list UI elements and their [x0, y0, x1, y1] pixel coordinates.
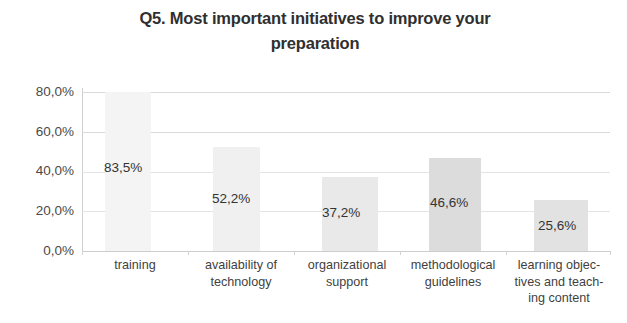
bar-chart: Q5. Most important initiatives to improv…	[0, 0, 627, 323]
x-axis-category-learning-objectives: learning objec- tives and teach- ing con…	[506, 257, 612, 307]
x-axis-tick-2	[294, 251, 295, 255]
x-axis-tick-0	[82, 251, 83, 255]
category-line-1: training	[82, 257, 188, 274]
gridline-40	[82, 172, 610, 173]
x-axis-tick-1	[188, 251, 189, 255]
category-line-1: methodological	[400, 257, 506, 274]
data-label-learning-objectives: 25,6%	[538, 218, 576, 233]
x-axis-category-training: training	[82, 257, 188, 274]
plot-area	[82, 92, 610, 251]
chart-title: Q5. Most important initiatives to improv…	[60, 6, 570, 56]
y-axis-label-40: 40,0%	[8, 164, 74, 178]
x-axis-line	[82, 251, 610, 252]
y-axis-label-20: 20,0%	[8, 204, 74, 218]
chart-title-line-2: preparation	[60, 31, 570, 56]
gridline-60	[82, 132, 610, 133]
y-axis-label-0: 0,0%	[8, 244, 74, 258]
data-label-methodological-guidelines: 46,6%	[430, 195, 468, 210]
x-axis-tick-4	[506, 251, 507, 255]
category-line-3: ing content	[506, 290, 612, 307]
category-line-2: technology	[188, 274, 294, 291]
chart-title-line-1: Q5. Most important initiatives to improv…	[60, 6, 570, 31]
y-axis-label-60: 60,0%	[8, 125, 74, 139]
x-axis-tick-3	[400, 251, 401, 255]
data-label-organizational-support: 37,2%	[322, 205, 360, 220]
category-line-2: support	[294, 274, 400, 291]
category-line-2: tives and teach-	[506, 274, 612, 291]
x-axis-category-methodological-guidelines: methodological guidelines	[400, 257, 506, 290]
category-line-1: organizational	[294, 257, 400, 274]
x-axis-category-availability-of-technology: availability of technology	[188, 257, 294, 290]
x-axis-category-organizational-support: organizational support	[294, 257, 400, 290]
x-axis-tick-5	[610, 251, 611, 255]
gridline-80	[82, 92, 610, 93]
data-label-training: 83,5%	[104, 160, 142, 175]
y-axis-label-80: 80,0%	[8, 85, 74, 99]
category-line-1: availability of	[188, 257, 294, 274]
category-line-2: guidelines	[400, 274, 506, 291]
data-label-availability-of-technology: 52,2%	[212, 191, 250, 206]
category-line-1: learning objec-	[506, 257, 612, 274]
